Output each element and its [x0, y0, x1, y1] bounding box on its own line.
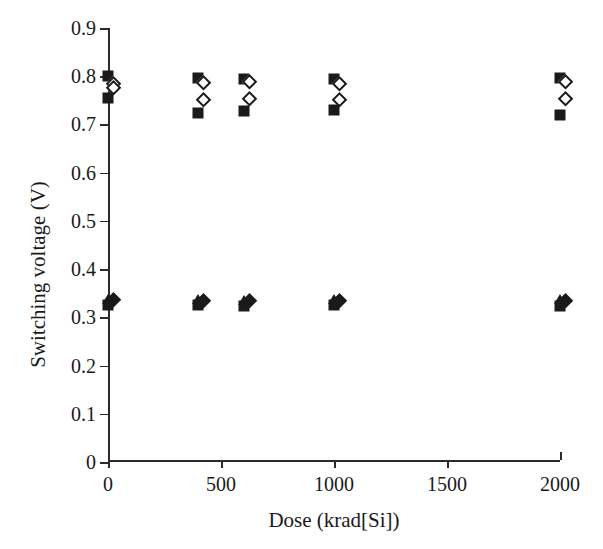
x-tick-mark: [108, 460, 110, 468]
y-tick-label: 0.3: [71, 307, 96, 327]
data-point-filled-square: [238, 106, 249, 117]
plot-area: 00.10.20.30.40.50.60.70.80.9 05001000150…: [108, 28, 560, 462]
data-point-filled-square: [103, 300, 114, 311]
y-tick-label: 0.7: [71, 114, 96, 134]
x-tick-mark: [221, 460, 223, 468]
data-point-filled-square: [193, 107, 204, 118]
y-tick-mark: [100, 462, 108, 464]
data-point-filled-square: [329, 105, 340, 116]
y-tick-mark: [100, 28, 108, 30]
y-axis-title: Switching voltage (V): [18, 0, 58, 549]
data-point-filled-square: [103, 92, 114, 103]
y-tick-label: 0.6: [71, 163, 96, 183]
y-tick-mark: [100, 124, 108, 126]
y-tick-label: 0.5: [71, 211, 96, 231]
y-tick-label: 0.8: [71, 66, 96, 86]
y-tick-mark: [100, 366, 108, 368]
data-point-open-diamond: [558, 91, 574, 107]
x-tick-label: 0: [103, 474, 113, 494]
data-point-filled-square: [555, 109, 566, 120]
x-tick-label: 2000: [540, 474, 580, 494]
data-point-open-diamond: [196, 92, 212, 108]
y-tick-label: 0.4: [71, 259, 96, 279]
y-tick-mark: [100, 221, 108, 223]
y-tick-label: 0.2: [71, 356, 96, 376]
x-tick-mark: [560, 452, 562, 460]
y-tick-mark: [100, 317, 108, 319]
data-point-filled-square: [193, 300, 204, 311]
data-point-filled-square: [238, 300, 249, 311]
x-tick-label: 1500: [427, 474, 467, 494]
y-tick-label: 0.9: [71, 18, 96, 38]
data-point-open-diamond: [241, 91, 257, 107]
y-tick-label: 0: [86, 452, 96, 472]
y-tick-mark: [100, 173, 108, 175]
y-tick-mark: [100, 269, 108, 271]
x-tick-label: 1000: [314, 474, 354, 494]
x-axis-title: Dose (krad[Si]): [108, 508, 560, 533]
data-point-filled-square: [555, 300, 566, 311]
y-tick-mark: [100, 414, 108, 416]
data-point-filled-square: [329, 300, 340, 311]
x-tick-mark: [334, 460, 336, 468]
y-tick-label: 0.1: [71, 404, 96, 424]
chart-figure: 00.10.20.30.40.50.60.70.80.9 05001000150…: [0, 0, 603, 549]
x-tick-mark: [447, 460, 449, 468]
x-tick-label: 500: [206, 474, 236, 494]
